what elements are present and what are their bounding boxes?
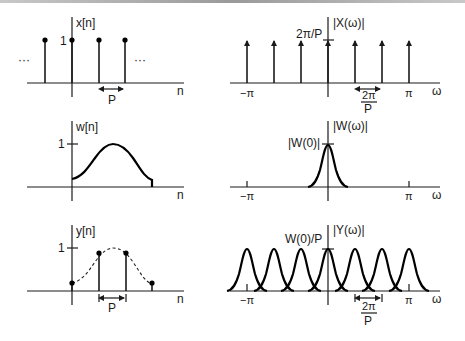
x-time-ylabel: x[n] [76,16,95,30]
panel-y-freq: |Y(ω)| W(0)/P ω −π π 2π P [227,223,441,328]
spacing-denominator: P [364,102,372,116]
peak-label: |W(0)| [288,136,320,150]
tick-neg-pi: −π [240,190,254,202]
sample-stems [69,250,154,291]
impulse-height-label: 2π/P [296,27,322,41]
impulse-train [42,37,127,83]
panel-y-time: y[n] 1 n P [27,224,184,315]
y-time-ylabel: y[n] [76,224,95,238]
tick-neg-pi: −π [240,87,254,99]
tick-pi: π [405,190,413,202]
tick-pi: π [405,87,413,99]
panel-w-freq: |W(ω)| |W(0)| ω −π π [230,119,441,202]
x-time-xlabel: n [177,84,184,98]
panel-w-time: w[n] 1 n [27,120,184,202]
spacing-numerator: 2π [362,89,376,101]
sampling-diagram: x[n] n 1 ··· ··· P |X(ω)| 2π/P ω −π π [0,0,465,341]
y-time-tick-one: 1 [58,241,65,255]
tick-pi: π [405,294,413,306]
period-label: P [108,301,116,315]
tick-neg-pi: −π [240,294,254,306]
panel-x-time: x[n] n 1 ··· ··· P [18,16,184,107]
spacing-numerator: 2π [362,300,376,312]
w-time-xlabel: n [177,188,184,202]
spacing-denominator: P [364,314,372,328]
y-freq-xlabel: ω [432,292,441,306]
ellipsis-right: ··· [134,53,146,67]
w-time-tick-one: 1 [58,137,65,151]
w-time-ylabel: w[n] [75,120,98,134]
peak-label: W(0)/P [285,232,322,246]
ellipsis-left: ··· [18,53,30,67]
w-freq-ylabel: |W(ω)| [333,119,368,133]
window-curve [72,144,152,187]
y-time-xlabel: n [177,292,184,306]
panel-x-freq: |X(ω)| 2π/P ω −π π 2π P [230,16,441,116]
x-time-tick-one: 1 [60,34,67,48]
impulse-arrows [247,41,409,83]
period-label: P [108,93,116,107]
envelope-dashed [72,248,152,284]
y-freq-ylabel: |Y(ω)| [333,223,365,237]
x-freq-xlabel: ω [432,84,441,98]
w-freq-xlabel: ω [432,188,441,202]
x-freq-ylabel: |X(ω)| [333,16,365,30]
